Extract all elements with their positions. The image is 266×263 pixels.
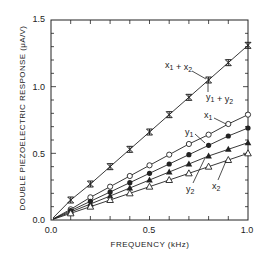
data-series <box>53 42 251 219</box>
annotations: x1 + x2y1 + y2x1y1y2x2 <box>165 60 233 195</box>
annotation-y1-plus-y2: y1 + y2 <box>206 92 233 105</box>
series-y2 <box>53 139 251 219</box>
annotation-x1-plus-x2: x1 + x2 <box>165 60 192 73</box>
x-tick-0.5: 0.5 <box>143 225 156 235</box>
y-tick-1.5: 1.5 <box>32 14 45 24</box>
x-tick-1.0: 1.0 <box>241 225 254 235</box>
annotation-y1: y1 <box>185 127 194 138</box>
y-tick-1.0: 1.0 <box>32 82 45 92</box>
x-tick-0.0: 0.0 <box>45 225 58 235</box>
annotation-y2: y2 <box>186 184 195 195</box>
x-axis-label: FREQUENCY (kHz) <box>111 240 190 249</box>
annotation-x2: x2 <box>212 181 221 192</box>
y-tick-0.0: 0.0 <box>32 215 45 225</box>
chart: x1 + x2y1 + y2x1y1y2x2 1.5 1.0 0.5 0.0 0… <box>0 0 266 263</box>
annotation-x1: x1 <box>204 110 213 121</box>
y-axis-label: DOUBLE PIEZOELECTRIC RESPONSE (μA/V) <box>18 26 27 211</box>
y-tick-0.5: 0.5 <box>32 149 45 159</box>
series-x1 <box>53 112 251 219</box>
series-x2 <box>53 150 251 220</box>
series-x1-x2 <box>53 42 251 218</box>
